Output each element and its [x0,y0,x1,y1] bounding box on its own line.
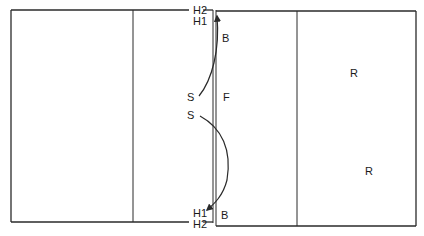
label-s-upper: S [187,92,194,103]
label-r-upper: R [350,68,358,79]
lower-curve-arrow [200,116,228,210]
label-r-lower: R [365,166,373,177]
label-b-top: B [222,33,229,44]
label-b-bottom: B [221,210,228,221]
label-f-center: F [223,92,230,103]
label-h1-top: H1 [193,16,207,27]
upper-curve-arrow [199,16,218,96]
label-s-lower: S [187,110,194,121]
left-panel [11,10,213,222]
right-panel [216,11,416,226]
center-fold-line [213,10,216,226]
diagram-canvas [0,0,424,236]
label-h2-bottom: H2 [193,219,207,230]
